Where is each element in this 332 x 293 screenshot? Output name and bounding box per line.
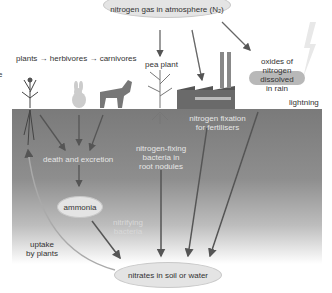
pea-plant-icon xyxy=(148,70,172,124)
fox-icon xyxy=(100,80,132,108)
death-excretion-label: death and excretion xyxy=(43,155,113,164)
nitrifying-bacteria-label: nitrifying bacteria xyxy=(103,218,153,236)
nitrogen-cycle-diagram: nitrogen gas in atmosphere (N₂) e plants… xyxy=(0,0,332,293)
ammonia-node: ammonia xyxy=(57,196,103,218)
lightning-label: lightning xyxy=(289,98,319,107)
fertiliser-fixation-label: nitrogen fixation for fertilisers xyxy=(180,114,255,132)
uptake-by-plants-label: uptake by plants xyxy=(22,240,62,258)
nitrates-node: nitrates in soil or water xyxy=(114,262,222,288)
pea-plant-label: pea plant xyxy=(145,60,178,69)
rabbit-icon xyxy=(72,81,86,108)
wildflower-plant-icon xyxy=(22,78,38,145)
clipped-edge-text: e xyxy=(0,70,2,79)
oxides-label: oxides of nitrogen dissolved in rain xyxy=(250,57,304,93)
food-chain: plants → herbivores → carnivores xyxy=(16,54,137,63)
lightning-bolt-icon xyxy=(303,22,316,78)
factory-icon xyxy=(177,52,235,109)
nitrogen-fixing-bacteria-label: nitrogen-fixing bacteria in root nodules xyxy=(128,144,194,171)
